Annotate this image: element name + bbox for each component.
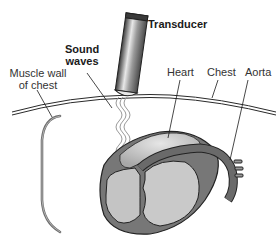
label-muscle-wall: Muscle wall of chest (8, 68, 68, 91)
label-sound-waves-line1: Sound (64, 44, 100, 56)
label-chest: Chest (207, 67, 236, 79)
transducer-probe (115, 13, 148, 97)
chest-wall (12, 95, 276, 116)
label-sound-waves-line2: waves (64, 56, 100, 68)
label-aorta: Aorta (245, 67, 271, 79)
label-muscle-wall-line2: of chest (8, 80, 68, 92)
label-transducer: Transducer (148, 19, 207, 31)
heart-shape (100, 131, 243, 234)
label-sound-waves: Sound waves (64, 44, 100, 67)
label-muscle-wall-line1: Muscle wall (8, 68, 68, 80)
echocardiogram-diagram: Transducer Sound waves Muscle wall of ch… (0, 0, 280, 243)
diagram-drawing (0, 0, 280, 243)
label-heart: Heart (167, 67, 194, 79)
